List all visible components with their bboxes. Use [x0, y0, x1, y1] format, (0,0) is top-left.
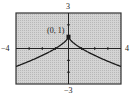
xmax-label: 4 [125, 45, 129, 53]
peak-point-marker [67, 35, 71, 39]
ymin-label: −3 [64, 87, 73, 95]
ymax-label: 3 [66, 3, 70, 11]
xmin-label: −4 [1, 45, 10, 53]
graph-window [0, 0, 138, 96]
point-annotation: (0, 1) [47, 27, 64, 35]
